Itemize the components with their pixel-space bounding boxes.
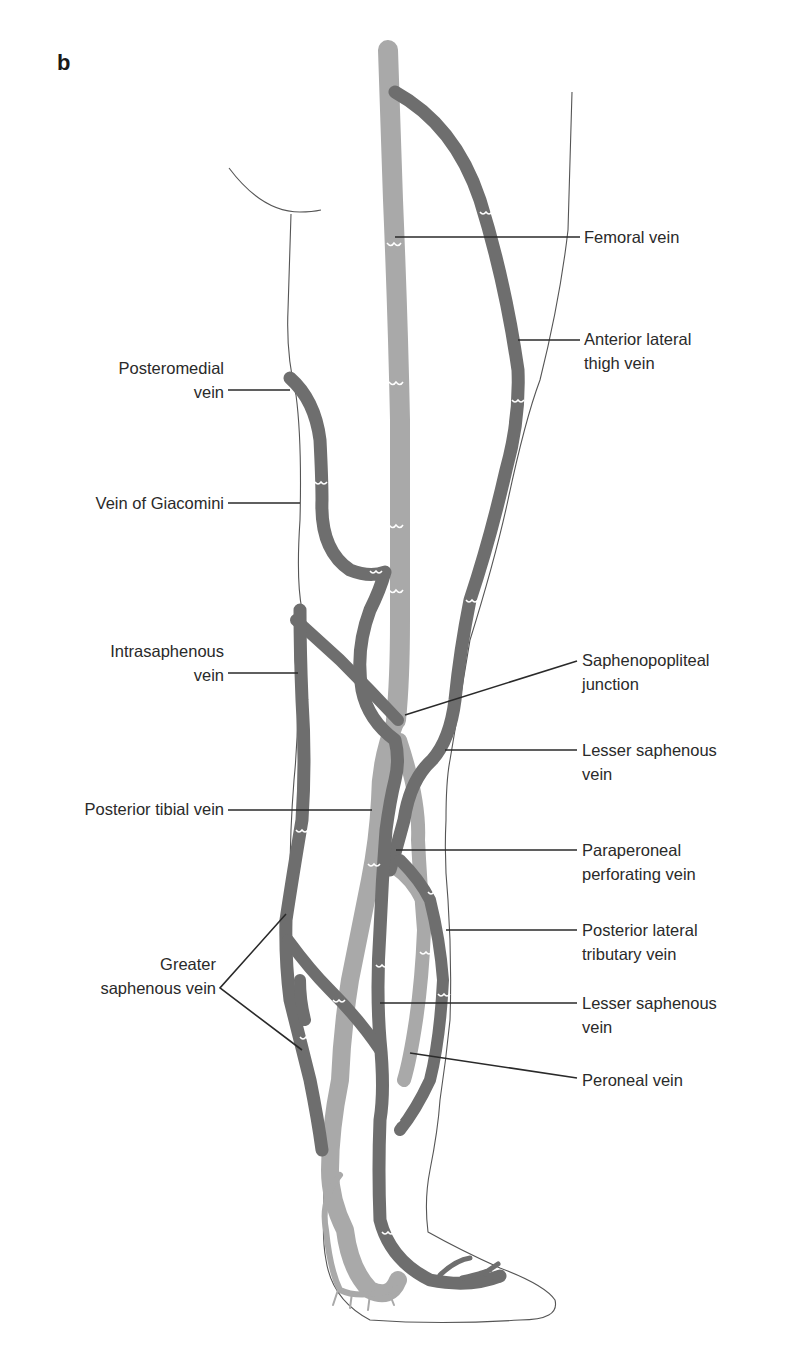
label-lesser-saphenous-vein-upper: Lesser saphenous vein <box>582 738 717 786</box>
label-posteromedial-vein: Posteromedial vein <box>119 356 224 404</box>
label-vein-of-giacomini: Vein of Giacomini <box>96 491 224 515</box>
label-posterior-lateral-tributary-vein: Posterior lateral tributary vein <box>582 918 698 966</box>
label-saphenopopliteal-junction: Saphenopopliteal junction <box>582 648 710 696</box>
label-femoral-vein: Femoral vein <box>584 225 679 249</box>
leg-venous-anatomy-figure: b <box>0 0 788 1368</box>
label-greater-saphenous-vein: Greater saphenous vein <box>100 952 216 1000</box>
label-paraperoneal-perforating-vein: Paraperoneal perforating vein <box>582 838 696 886</box>
label-peroneal-vein: Peroneal vein <box>582 1068 683 1092</box>
label-intrasaphenous-vein: Intrasaphenous vein <box>110 639 224 687</box>
label-lesser-saphenous-vein-lower: Lesser saphenous vein <box>582 991 717 1039</box>
label-posterior-tibial-vein: Posterior tibial vein <box>85 797 224 821</box>
label-anterior-lateral-thigh-vein: Anterior lateral thigh vein <box>584 327 691 375</box>
